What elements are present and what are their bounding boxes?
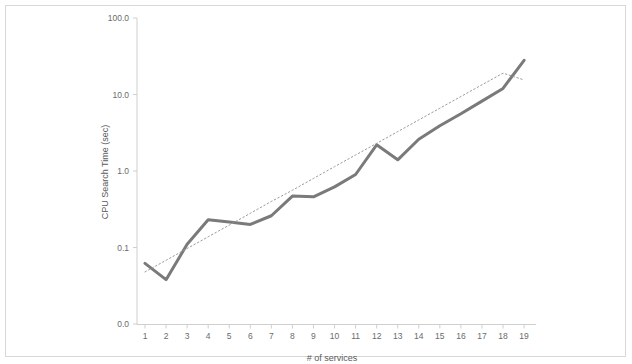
x-axis-title: # of services: [307, 353, 358, 363]
x-tick-label: 16: [456, 331, 466, 341]
y-tick-label: 0.1: [117, 243, 129, 253]
trendline-path: [145, 73, 524, 272]
x-axis: 12345678910111213141516171819: [137, 325, 536, 341]
x-tick-label: 13: [393, 331, 403, 341]
y-axis: 100.010.01.00.10.0: [108, 13, 137, 329]
x-tick-label: 14: [414, 331, 424, 341]
y-axis-title: CPU Search Time (sec): [100, 125, 110, 220]
y-tick-label: 100.0: [108, 13, 130, 23]
x-tick-label: 7: [269, 331, 274, 341]
x-tick-label: 3: [185, 331, 190, 341]
x-tick-label: 19: [519, 331, 529, 341]
x-tick-label: 8: [290, 331, 295, 341]
series-lines: [145, 60, 524, 279]
x-tick-label: 15: [435, 331, 445, 341]
x-tick-label: 6: [248, 331, 253, 341]
x-tick-label: 12: [372, 331, 382, 341]
y-tick-label: 0.0: [117, 319, 129, 329]
x-tick-label: 1: [143, 331, 148, 341]
y-tick-label: 10.0: [112, 90, 129, 100]
line-chart: 100.010.01.00.10.0 123456789101112131415…: [0, 0, 632, 364]
x-tick-label: 17: [477, 331, 487, 341]
x-tick-label: 11: [351, 331, 360, 341]
x-tick-label: 2: [164, 331, 169, 341]
y-tick-label: 1.0: [117, 166, 129, 176]
x-tick-label: 18: [498, 331, 508, 341]
x-tick-label: 4: [206, 331, 211, 341]
chart-container: 100.010.01.00.10.0 123456789101112131415…: [0, 0, 632, 364]
x-tick-label: 5: [227, 331, 232, 341]
x-tick-label: 9: [311, 331, 316, 341]
x-tick-label: 10: [330, 331, 340, 341]
